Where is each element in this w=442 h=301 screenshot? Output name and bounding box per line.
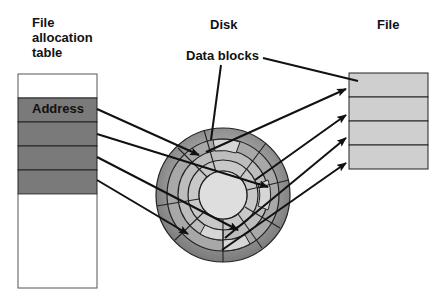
disk — [156, 128, 290, 262]
diagram-canvas — [0, 0, 442, 301]
file-blocks — [349, 73, 428, 169]
leader-lines — [211, 58, 358, 140]
data-blocks-label: Data blocks — [186, 48, 259, 63]
fat-address-label: Address — [32, 101, 84, 116]
